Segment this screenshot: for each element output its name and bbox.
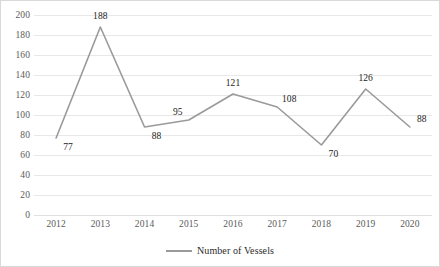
y-tick-label: 100 <box>15 110 30 120</box>
legend-label: Number of Vessels <box>197 245 274 256</box>
data-label: 121 <box>226 78 241 88</box>
x-tick-label: 2016 <box>223 219 242 229</box>
data-label: 88 <box>152 131 162 141</box>
x-tick-label: 2019 <box>356 219 375 229</box>
data-label: 95 <box>173 107 183 117</box>
y-tick-label: 120 <box>15 90 30 100</box>
line-chart-figure: 020406080100120140160180200 771888895121… <box>0 0 440 267</box>
y-tick-label: 80 <box>20 130 30 140</box>
x-tick-label: 2020 <box>400 219 419 229</box>
x-tick-label: 2012 <box>46 219 65 229</box>
y-tick-label: 180 <box>15 30 30 40</box>
data-label: 70 <box>329 149 339 159</box>
y-tick-label: 40 <box>20 170 30 180</box>
x-tick-label: 2015 <box>179 219 198 229</box>
legend-swatch-icon <box>166 250 192 252</box>
y-tick-label: 200 <box>15 10 30 20</box>
x-tick-label: 2017 <box>268 219 287 229</box>
y-tick-label: 20 <box>20 190 30 200</box>
y-tick-label: 60 <box>20 150 30 160</box>
data-label: 108 <box>282 94 297 104</box>
y-tick-label: 140 <box>15 70 30 80</box>
x-tick-label: 2018 <box>312 219 331 229</box>
y-tick-label: 160 <box>15 50 30 60</box>
x-tick-label: 2014 <box>135 219 154 229</box>
x-tick-label: 2013 <box>91 219 110 229</box>
data-label: 188 <box>93 11 108 21</box>
legend: Number of Vessels <box>1 245 439 256</box>
data-label: 77 <box>63 142 73 152</box>
data-label: 126 <box>358 73 373 83</box>
gridline <box>34 215 432 216</box>
series-number-of-vessels <box>34 15 432 215</box>
y-axis: 020406080100120140160180200 <box>1 15 30 215</box>
data-label: 88 <box>417 114 427 124</box>
y-tick-label: 0 <box>25 210 30 220</box>
plot-area: 7718888951211087012688 <box>34 15 432 215</box>
x-axis: 201220132014201520162017201820192020 <box>34 219 432 235</box>
